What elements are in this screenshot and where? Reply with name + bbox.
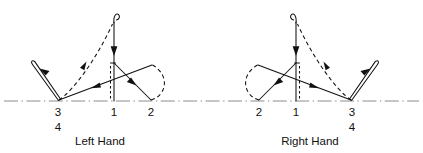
solid-descend-to-position-3 bbox=[59, 65, 152, 100]
arrowhead-stem-down bbox=[111, 46, 118, 56]
arrowhead-descend-left bbox=[91, 82, 101, 88]
stroke-path-figure: 3 4 1 2 Left Hand bbox=[0, 0, 423, 153]
position-sublabel-4: 4 bbox=[55, 121, 62, 133]
position-label-3: 3 bbox=[55, 106, 61, 118]
position-label-3: 3 bbox=[349, 106, 355, 118]
flick-loop-right bbox=[350, 61, 379, 101]
stem-top-hook-icon bbox=[291, 14, 297, 23]
panel-caption-left-hand: Left Hand bbox=[75, 135, 125, 147]
arrowhead-descend-right bbox=[309, 82, 319, 88]
arrowhead-dashed-lift bbox=[324, 62, 331, 71]
dashed-return-loop bbox=[151, 65, 164, 100]
flick-loop-left bbox=[32, 61, 61, 101]
arrowhead-flick-right bbox=[361, 69, 371, 76]
dashed-return-loop bbox=[246, 65, 259, 100]
dashed-lift-arc bbox=[298, 24, 352, 100]
arrowhead-flick-left bbox=[40, 69, 50, 76]
position-sublabel-4: 4 bbox=[349, 121, 356, 133]
panel-left-hand: 3 4 1 2 Left Hand bbox=[32, 14, 165, 147]
solid-descend-to-position-3 bbox=[258, 65, 351, 100]
arrowhead-stroke-1-to-2 bbox=[274, 78, 284, 86]
panel-right-hand: 2 1 3 4 Right Hand bbox=[246, 14, 379, 147]
arrowhead-dashed-lift bbox=[80, 62, 87, 71]
stem-top-hook-icon bbox=[114, 14, 120, 23]
position-label-2: 2 bbox=[148, 106, 154, 118]
panel-caption-right-hand: Right Hand bbox=[281, 135, 339, 147]
arrowhead-stroke-1-to-2 bbox=[127, 78, 137, 86]
dashed-lift-arc bbox=[59, 24, 113, 100]
position-label-2: 2 bbox=[256, 106, 262, 118]
position-label-1: 1 bbox=[111, 106, 117, 118]
position-label-1: 1 bbox=[293, 106, 299, 118]
arrowhead-stem-down bbox=[293, 46, 300, 56]
figure-canvas: 3 4 1 2 Left Hand bbox=[0, 0, 423, 153]
